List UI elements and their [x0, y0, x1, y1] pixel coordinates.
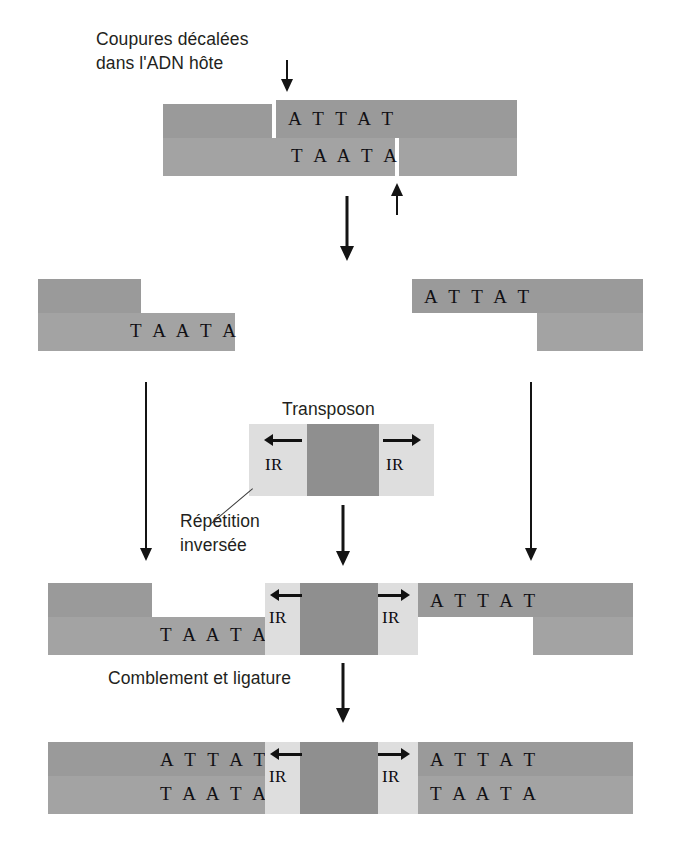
- step4-right-ir-label: IR: [382, 608, 400, 628]
- left-fragment-top-strand: [38, 279, 141, 313]
- host-top-sequence: A T T A T: [288, 108, 397, 130]
- transposition-diagram: Coupures décalées dans l'ADN hôte A T T …: [0, 0, 681, 841]
- staggered-cuts-label-line2-wrap: dans l'ADN hôte: [96, 52, 223, 75]
- step4-left-bottom-sequence: T A A T A: [160, 624, 270, 646]
- step5-left-top-sequence: A T T A T: [160, 749, 269, 771]
- step5-transposon-core: [300, 742, 378, 814]
- right-fragment-bottom-strand: [537, 313, 643, 351]
- right-fragment-sequence: A T T A T: [424, 286, 533, 308]
- flow-arrow-ligate: [334, 663, 352, 723]
- step5-left-bottom-sequence: T A A T A: [160, 783, 270, 805]
- transposon-label: Transposon: [282, 398, 375, 421]
- step5-left-ir-label: IR: [269, 767, 287, 787]
- transposon-left-ir-label: IR: [265, 455, 283, 475]
- host-bottom-strand-right: [399, 138, 517, 176]
- inverted-repeat-label-line2: inversée: [180, 534, 247, 557]
- flow-arrow-right: [523, 382, 539, 564]
- step4-right-top-sequence: A T T A T: [430, 590, 539, 612]
- step4-left-top-strand: [48, 583, 152, 617]
- bottom-cut-pointer-arrow: [390, 183, 404, 215]
- step4-transposon-core: [300, 583, 378, 655]
- fill-and-ligate-label: Comblement et ligature: [108, 667, 291, 690]
- flow-arrow-transposon: [334, 505, 352, 567]
- staggered-cuts-label-line2: dans l'ADN hôte: [96, 53, 223, 73]
- staggered-cuts-label-line1: Coupures décalées: [96, 29, 249, 49]
- staggered-cuts-label: Coupures décalées: [96, 28, 249, 51]
- transposon-core-block: [307, 424, 379, 496]
- inverted-repeat-label-line1: Répétition: [180, 510, 260, 533]
- step5-right-top-sequence: A T T A T: [430, 749, 539, 771]
- transposon-right-ir-label: IR: [386, 455, 404, 475]
- flow-arrow-left: [138, 382, 154, 564]
- step5-right-bottom-sequence: T A A T A: [430, 783, 540, 805]
- transposon-right-ir-arrow: [383, 434, 421, 446]
- step5-left-ir-arrow: [270, 748, 302, 760]
- step4-right-ir-arrow: [378, 589, 410, 601]
- host-top-strand-left: [163, 104, 272, 138]
- step4-left-ir-arrow: [270, 589, 302, 601]
- step5-right-ir-label: IR: [382, 767, 400, 787]
- host-bottom-sequence: T A A T A: [291, 145, 401, 167]
- transposon-left-ir-arrow: [264, 434, 302, 446]
- step5-right-ir-arrow: [378, 748, 410, 760]
- step4-left-ir-label: IR: [269, 608, 287, 628]
- flow-arrow-1: [338, 196, 356, 262]
- left-fragment-sequence: T A A T A: [130, 320, 240, 342]
- top-cut-pointer-arrow: [279, 60, 295, 92]
- step4-right-bottom-strand: [533, 617, 633, 655]
